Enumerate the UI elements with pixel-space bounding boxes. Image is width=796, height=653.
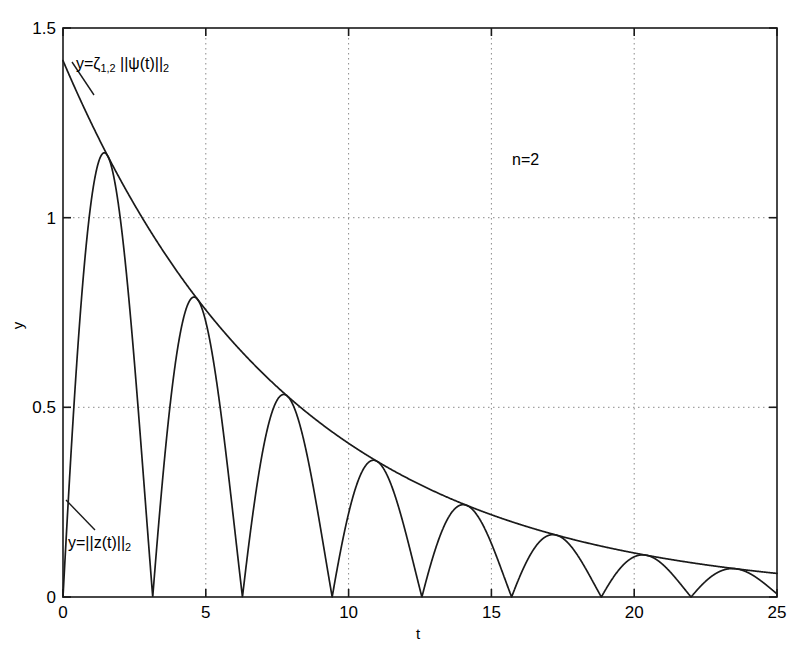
envelope-label-zeta-subscript: 1,2	[100, 62, 115, 74]
grid-lines	[63, 28, 777, 597]
data-curves	[63, 61, 777, 597]
envelope-label-rhs: ||ψ(t)||	[116, 55, 164, 72]
plot-svg	[0, 0, 796, 653]
x-tick-label-25: 25	[768, 604, 787, 621]
envelope-curve	[63, 61, 777, 574]
envelope-curve-label: y=ζ1,2 ||ψ(t)||2	[76, 56, 169, 73]
envelope-label-lhs: y=	[76, 55, 93, 72]
x-tick-label-5: 5	[201, 604, 210, 621]
x-tick-label-0: 0	[58, 604, 67, 621]
y-tick-marks	[63, 28, 777, 597]
signal-curve-label: y=||z(t)||2	[68, 535, 131, 552]
x-tick-label-20: 20	[625, 604, 644, 621]
figure-canvas: 0 5 10 15 20 25 0 0.5 1 1.5 t y y=ζ1,2 |…	[0, 0, 796, 653]
leader-signal	[66, 500, 95, 530]
y-axis-title: y	[10, 322, 25, 330]
y-tick-label-0: 0	[14, 589, 56, 606]
plot-box	[63, 28, 777, 597]
signal-label-lhs: y=||z(t)||	[68, 534, 125, 551]
x-tick-label-15: 15	[482, 604, 501, 621]
envelope-label-rhs-subscript: 2	[163, 62, 169, 74]
y-tick-label-1: 1	[14, 209, 56, 226]
x-axis-title: t	[416, 626, 420, 641]
oscillation-curve	[63, 153, 777, 597]
x-tick-marks	[63, 28, 777, 597]
x-tick-label-10: 10	[339, 604, 358, 621]
y-tick-label-0.5: 0.5	[14, 399, 56, 416]
order-annotation: n=2	[512, 152, 539, 169]
y-tick-label-1.5: 1.5	[14, 20, 56, 37]
signal-label-subscript: 2	[125, 541, 131, 553]
